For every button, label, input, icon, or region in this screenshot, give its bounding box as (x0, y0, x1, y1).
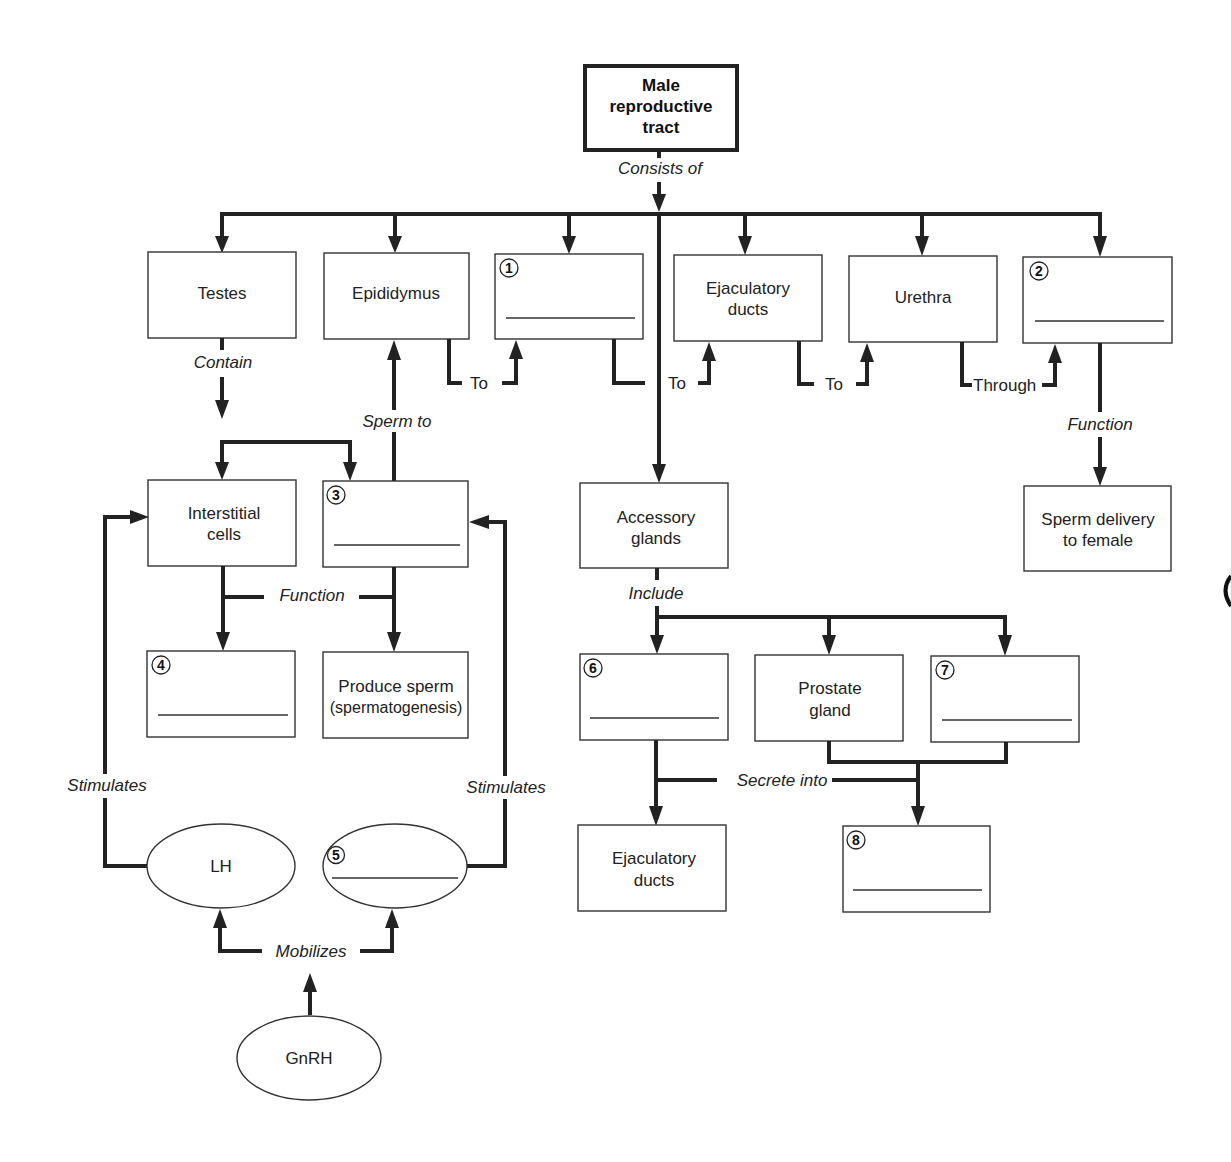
arrow-head (215, 400, 229, 419)
connector (962, 342, 972, 385)
connector (466, 799, 505, 866)
arrow-head (652, 464, 666, 483)
link-to-1: To (470, 374, 488, 393)
connector (856, 359, 867, 384)
arrow-head (509, 340, 523, 359)
node-lh: LH (147, 824, 295, 908)
node-sperm-delivery-line2: to female (1063, 531, 1133, 550)
blank-1-number: 1 (505, 260, 513, 276)
link-secrete-into: Secrete into (737, 771, 828, 790)
root-node-male-reproductive-tract: Male reproductive tract (585, 66, 737, 150)
node-produce-sperm-line2: (spermatogenesis) (330, 699, 463, 716)
arrow-head (649, 806, 663, 826)
blank-node-3: 3 (323, 481, 468, 567)
link-sperm-to: Sperm to (363, 412, 432, 431)
node-prostate-line2: gland (809, 701, 851, 720)
connector (360, 925, 392, 951)
root-label-line3: tract (643, 118, 680, 137)
arrow-head (385, 909, 399, 928)
node-sperm-delivery-line1: Sperm delivery (1041, 510, 1155, 529)
link-to-3: To (825, 375, 843, 394)
node-interstitial-cells: Interstitial cells (148, 480, 296, 566)
node-prostate-gland: Prostate gland (755, 655, 903, 741)
link-function-left: Function (279, 586, 344, 605)
node-gnrh: GnRH (237, 1016, 381, 1100)
node-urethra-label: Urethra (895, 288, 952, 307)
node-urethra: Urethra (849, 256, 997, 342)
blank-2-number: 2 (1035, 263, 1043, 279)
connector (105, 517, 132, 774)
connector (614, 339, 645, 383)
link-include: Include (629, 584, 684, 603)
node-accessory-line1: Accessory (617, 508, 696, 527)
arrow-head (1093, 236, 1107, 257)
blank-8-number: 8 (852, 832, 860, 848)
link-stimulates-left: Stimulates (67, 776, 147, 795)
arrow-head (213, 909, 227, 928)
node-produce-sperm-line1: Produce sperm (338, 677, 453, 696)
arrow-head (652, 194, 666, 212)
arrow-head (130, 510, 149, 524)
node-sperm-delivery: Sperm delivery to female (1024, 486, 1171, 571)
blank-node-5: 5 (323, 824, 467, 908)
node-ejaculatory-bottom-line1: Ejaculatory (612, 849, 697, 868)
connector (698, 358, 709, 383)
blank-node-7: 7 (931, 656, 1079, 742)
arrow-head (911, 806, 925, 826)
blank-3-number: 3 (332, 487, 340, 503)
node-ejaculatory-ducts-top-line1: Ejaculatory (706, 279, 791, 298)
root-label-line2: reproductive (610, 97, 713, 116)
link-mobilizes: Mobilizes (276, 942, 347, 961)
node-accessory-line2: glands (631, 529, 681, 548)
arrow-head (822, 635, 836, 655)
connector (449, 339, 462, 383)
node-produce-sperm: Produce sperm (spermatogenesis) (323, 652, 468, 738)
node-ejaculatory-ducts-bottom: Ejaculatory ducts (578, 825, 726, 911)
arrow-head (915, 236, 929, 256)
link-through: Through (973, 376, 1036, 395)
arrow-head (562, 236, 576, 254)
node-ejaculatory-bottom-line2: ducts (634, 871, 675, 890)
root-label-line1: Male (642, 76, 680, 95)
arrow-head (387, 340, 401, 360)
arrow-head (216, 632, 230, 651)
node-ejaculatory-ducts-top-line2: ducts (728, 300, 769, 319)
connector (487, 522, 505, 776)
node-interstitial-line2: cells (207, 525, 241, 544)
arrow-head (738, 236, 752, 255)
blank-node-2: 2 (1023, 257, 1172, 343)
connector (220, 925, 262, 951)
blank-7-number: 7 (941, 662, 949, 678)
arrow-head (1093, 467, 1107, 486)
link-to-2: To (668, 374, 686, 393)
node-testes: Testes (148, 252, 296, 338)
blank-node-6: 6 (580, 654, 728, 740)
arrow-head (215, 236, 229, 253)
link-stimulates-right: Stimulates (466, 778, 546, 797)
link-contain: Contain (194, 353, 253, 372)
connector (502, 356, 516, 383)
arrow-head (215, 462, 229, 480)
connector (222, 442, 350, 465)
arrow-head (860, 343, 874, 362)
arrow-head (303, 973, 317, 992)
node-prostate-line1: Prostate (798, 679, 861, 698)
arrow-head (343, 462, 357, 481)
arrow-head (702, 342, 716, 361)
node-accessory-glands: Accessory glands (580, 483, 728, 568)
concept-map: Male reproductive tract Consists of Test… (0, 0, 1231, 1162)
arrow-head (469, 515, 489, 529)
link-function-right: Function (1067, 415, 1132, 434)
blank-node-4: 4 (147, 651, 295, 737)
arrow-head (388, 236, 402, 253)
blank-4-number: 4 (157, 657, 165, 673)
arrow-head (1048, 344, 1062, 363)
blank-6-number: 6 (589, 660, 597, 676)
node-epididymus: Epididymus (324, 253, 469, 339)
connector (799, 341, 814, 384)
connector (1042, 360, 1055, 385)
cropped-glyph (1226, 576, 1231, 606)
arrow-head (998, 635, 1012, 656)
node-interstitial-line1: Interstitial (188, 504, 261, 523)
node-ejaculatory-ducts-top: Ejaculatory ducts (674, 255, 822, 341)
